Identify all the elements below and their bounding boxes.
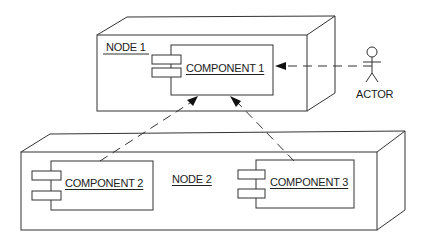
actor-icon: [363, 47, 381, 82]
deployment-diagram: [0, 0, 423, 239]
component-2-label: COMPONENT 2: [65, 177, 143, 189]
actor-label: ACTOR: [356, 88, 393, 100]
arrowhead-icon: [230, 96, 241, 107]
arrowhead-icon: [275, 62, 286, 70]
node-2-label: NODE 2: [172, 173, 212, 185]
node-1-label: NODE 1: [106, 41, 146, 53]
arrowhead-icon: [187, 96, 198, 106]
component-1-label: COMPONENT 1: [186, 62, 264, 74]
component-3-label: COMPONENT 3: [270, 176, 348, 188]
